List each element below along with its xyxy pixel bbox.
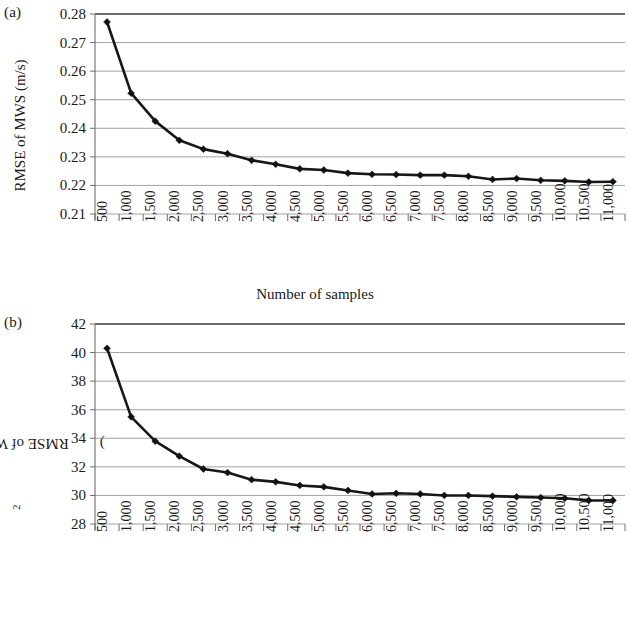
data-point-marker <box>320 167 327 174</box>
data-point-marker <box>465 492 472 499</box>
x-tick-label: 7,000 <box>408 501 423 533</box>
data-point-marker <box>248 476 255 483</box>
data-point-marker <box>224 150 231 157</box>
x-tick-label: 3,500 <box>240 191 255 223</box>
x-tick-label: 2,000 <box>167 191 182 223</box>
x-tick-label: 500 <box>95 511 110 532</box>
data-point-marker <box>345 487 352 494</box>
data-point-marker <box>561 177 568 184</box>
x-tick-label: 7,500 <box>432 191 447 223</box>
data-point-marker <box>369 171 376 178</box>
data-point-marker <box>465 173 472 180</box>
data-point-marker <box>224 469 231 476</box>
y-tick-label: 28 <box>71 516 86 532</box>
x-tick-label: 8,000 <box>456 191 471 223</box>
y-tick-label: 0.28 <box>60 6 86 22</box>
x-tick-label: 6,000 <box>360 501 375 533</box>
panel-a-x-axis-label: Number of samples <box>190 286 440 303</box>
x-tick-label: 1,500 <box>143 191 158 223</box>
y-tick-label: 42 <box>71 316 86 332</box>
data-point-marker <box>104 345 111 352</box>
chart-panel-b: (b) RMSE of WPD (W/m2) 42403836343230285… <box>0 310 628 619</box>
y-tick-label: 0.23 <box>60 149 86 165</box>
x-tick-label: 1,500 <box>143 501 158 533</box>
y-tick-label: 38 <box>71 373 86 389</box>
x-tick-label: 8,500 <box>481 191 496 223</box>
x-tick-label: 2,000 <box>167 501 182 533</box>
panel-a-plot: 0.280.270.260.250.240.230.220.215001,000… <box>0 0 628 309</box>
chart-panel-a: (a) RMSE of MWS (m/s) 0.280.270.260.250.… <box>0 0 628 309</box>
data-point-marker <box>272 161 279 168</box>
x-tick-label: 9,000 <box>505 501 520 533</box>
x-tick-label: 9,000 <box>505 191 520 223</box>
x-tick-label: 5,000 <box>312 501 327 533</box>
data-point-marker <box>513 493 520 500</box>
figure-container: (a) RMSE of MWS (m/s) 0.280.270.260.250.… <box>0 0 628 619</box>
x-tick-label: 3,000 <box>216 191 231 223</box>
y-tick-label: 32 <box>71 459 86 475</box>
x-tick-label: 8,500 <box>481 501 496 533</box>
data-series-line <box>107 348 613 500</box>
x-tick-label: 1,000 <box>119 191 134 223</box>
x-tick-label: 4,000 <box>264 191 279 223</box>
data-point-marker <box>272 478 279 485</box>
x-tick-label: 5,000 <box>312 191 327 223</box>
data-point-marker <box>393 171 400 178</box>
data-point-marker <box>296 482 303 489</box>
data-point-marker <box>417 491 424 498</box>
x-tick-label: 4,000 <box>264 501 279 533</box>
x-tick-label: 3,000 <box>216 501 231 533</box>
y-tick-label: 34 <box>71 430 87 446</box>
y-tick-label: 30 <box>71 487 86 503</box>
y-tick-label: 0.21 <box>60 206 86 222</box>
y-tick-label: 0.24 <box>60 120 87 136</box>
x-tick-label: 10,500 <box>577 184 592 223</box>
x-tick-label: 9,500 <box>529 191 544 223</box>
x-tick-label: 6,500 <box>384 501 399 533</box>
data-point-marker <box>296 165 303 172</box>
x-tick-label: 5,500 <box>336 191 351 223</box>
x-tick-label: 7,000 <box>408 191 423 223</box>
x-tick-label: 2,500 <box>191 191 206 223</box>
data-point-marker <box>345 170 352 177</box>
x-tick-label: 10,000 <box>553 184 568 223</box>
data-point-marker <box>513 175 520 182</box>
data-point-marker <box>104 19 111 26</box>
data-point-marker <box>200 146 207 153</box>
x-tick-label: 2,500 <box>191 501 206 533</box>
data-point-marker <box>369 491 376 498</box>
x-tick-label: 7,500 <box>432 501 447 533</box>
data-point-marker <box>320 483 327 490</box>
x-tick-label: 11,000 <box>601 184 616 222</box>
y-tick-label: 0.26 <box>60 63 87 79</box>
data-point-marker <box>441 492 448 499</box>
x-tick-label: 500 <box>95 201 110 222</box>
y-tick-label: 0.22 <box>60 177 86 193</box>
x-tick-label: 5,500 <box>336 501 351 533</box>
data-point-marker <box>248 157 255 164</box>
data-point-marker <box>489 176 496 183</box>
x-tick-label: 1,000 <box>119 501 134 533</box>
y-tick-label: 0.27 <box>60 35 87 51</box>
x-tick-label: 3,500 <box>240 501 255 533</box>
data-point-marker <box>537 177 544 184</box>
x-tick-label: 4,500 <box>288 501 303 533</box>
y-tick-label: 0.25 <box>60 92 86 108</box>
panel-b-plot: 42403836343230285001,0001,5002,0002,5003… <box>0 310 628 619</box>
y-tick-label: 40 <box>71 345 86 361</box>
x-tick-label: 4,500 <box>288 191 303 223</box>
data-point-marker <box>417 172 424 179</box>
x-tick-label: 9,500 <box>529 501 544 533</box>
x-tick-label: 6,000 <box>360 191 375 223</box>
y-tick-label: 36 <box>71 402 87 418</box>
data-point-marker <box>489 493 496 500</box>
data-point-marker <box>441 172 448 179</box>
data-series-line <box>107 22 613 182</box>
x-tick-label: 6,500 <box>384 191 399 223</box>
x-tick-label: 8,000 <box>456 501 471 533</box>
